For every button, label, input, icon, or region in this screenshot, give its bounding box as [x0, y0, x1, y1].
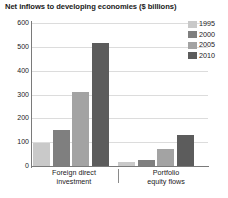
y-tick-label-200: 200 — [3, 114, 29, 121]
bar-chart: Net inflows to developing economies ($ b… — [0, 0, 228, 198]
chart-title: Net inflows to developing economies ($ b… — [5, 2, 176, 11]
legend-label-2000: 2000 — [199, 30, 215, 39]
bar-2010-group-0 — [92, 43, 109, 166]
x-axis-category-label-1: Portfolioequity flows — [124, 168, 208, 186]
legend-item-2000[interactable]: 2000 — [188, 30, 228, 41]
y-tick-label-600: 600 — [3, 19, 29, 26]
bar-2005-group-0 — [72, 92, 89, 166]
y-axis-labels: 0100200300400500600 — [0, 0, 29, 198]
x-axis-category-label-0-line-1: investment — [32, 177, 116, 186]
bar-2000-group-0 — [53, 130, 70, 166]
legend-label-2010: 2010 — [199, 51, 215, 60]
x-axis-category-label-0-line-0: Foreign direct — [32, 168, 116, 177]
legend-swatch-2005 — [188, 42, 197, 49]
legend-swatch-1995 — [188, 21, 197, 28]
legend-item-2010[interactable]: 2010 — [188, 51, 228, 62]
gridline-600 — [32, 23, 208, 24]
bar-2000-group-1 — [138, 160, 155, 166]
legend-swatch-2000 — [188, 31, 197, 38]
y-tick-label-400: 400 — [3, 67, 29, 74]
chart-legend: 1995200020052010 — [188, 19, 228, 61]
bar-1995-group-1 — [118, 162, 135, 166]
y-tick-label-300: 300 — [3, 91, 29, 98]
plot-area — [32, 23, 208, 166]
x-axis-category-label-1-line-1: equity flows — [124, 177, 208, 186]
group-separator — [118, 169, 119, 183]
y-tick-label-0: 0 — [3, 162, 29, 169]
legend-label-1995: 1995 — [199, 19, 215, 28]
bar-1995-group-0 — [33, 143, 50, 166]
x-axis-category-label-0: Foreign directinvestment — [32, 168, 116, 186]
gridline-500 — [32, 47, 208, 48]
legend-label-2005: 2005 — [199, 40, 215, 49]
y-tick-label-500: 500 — [3, 43, 29, 50]
gridline-300 — [32, 95, 208, 96]
legend-item-1995[interactable]: 1995 — [188, 19, 228, 30]
gridline-200 — [32, 118, 208, 119]
bar-2005-group-1 — [157, 149, 174, 166]
legend-swatch-2010 — [188, 52, 197, 59]
bar-2010-group-1 — [177, 135, 194, 166]
legend-item-2005[interactable]: 2005 — [188, 40, 228, 51]
gridline-400 — [32, 71, 208, 72]
y-tick-label-100: 100 — [3, 138, 29, 145]
x-axis-line — [31, 166, 209, 167]
x-axis-category-label-1-line-0: Portfolio — [124, 168, 208, 177]
